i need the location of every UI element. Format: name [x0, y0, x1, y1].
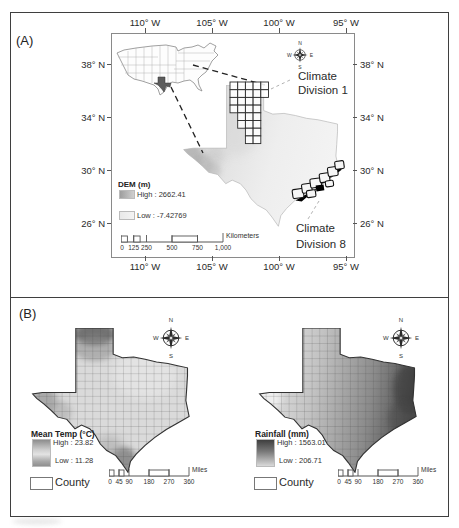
lon-label-top-100w: 100° W — [263, 17, 294, 28]
mi-tick-90: 90 — [125, 478, 132, 485]
county-legend-label-temp: County — [55, 476, 90, 488]
compass-e-label: E — [310, 52, 313, 58]
km-tick-750: 750 — [192, 244, 203, 251]
mi-tick-45: 45 — [344, 478, 351, 485]
mi-tick-180: 180 — [144, 478, 155, 485]
mi-tick-0: 0 — [108, 478, 112, 485]
lat-label-left-34n: 34° N — [65, 112, 105, 123]
scale-bar-kilometers: 0 125 250 500 750 1,000 Kilometers — [121, 230, 251, 254]
lat-tick-right — [353, 64, 357, 65]
lat-tick-right — [353, 117, 357, 118]
lat-label-right-26n: 26° N — [360, 218, 384, 229]
km-tick-125: 125 — [128, 244, 139, 251]
compass-n-label: N — [298, 40, 302, 46]
scale-bar-miles-rain: 0 45 90 180 270 360 Miles — [338, 464, 446, 486]
mi-tick-90: 90 — [354, 478, 361, 485]
temp-low-label: Low : 11.28 — [55, 456, 93, 465]
cd1-annotation-line1: Climate — [298, 69, 348, 83]
lon-label-top-105w: 105° W — [196, 17, 227, 28]
dem-high-label: High : 2662.41 — [137, 190, 186, 199]
zoom-cone-line-lower — [171, 87, 203, 153]
lon-label-bottom-110w: 110° W — [130, 261, 161, 272]
lon-label-bottom-100w: 100° W — [263, 261, 294, 272]
lat-label-left-30n: 30° N — [65, 165, 105, 176]
mi-tick-360: 360 — [184, 478, 195, 485]
figure-canvas: (A) 110° W 105° W 100° W 95° W 110° W 10… — [0, 0, 459, 528]
km-tick-1000: 1,000 — [215, 244, 231, 251]
compass-n-label: N — [169, 317, 173, 323]
km-tick-0: 0 — [120, 244, 124, 251]
dem-legend-title: DEM (m) — [118, 180, 150, 189]
mi-tick-270: 270 — [164, 478, 175, 485]
lon-tick-bottom — [212, 256, 213, 261]
lon-label-bottom-95w: 95° W — [333, 261, 359, 272]
lat-label-right-30n: 30° N — [360, 165, 384, 176]
lon-label-top-110w: 110° W — [130, 17, 161, 28]
mi-tick-360: 360 — [413, 478, 424, 485]
county-legend-swatch-temp — [30, 477, 53, 490]
rain-high-label: High : 1563.01 — [277, 438, 326, 447]
climate-division-8-counties — [289, 159, 349, 203]
panel-b: (B) — [10, 297, 449, 517]
compass-star-icon — [389, 326, 414, 351]
cd1-leader-line — [271, 80, 290, 89]
mi-unit-label: Miles — [192, 466, 207, 473]
compass-e-label: E — [185, 335, 189, 341]
km-tick-500: 500 — [167, 244, 178, 251]
panel-a: (A) 110° W 105° W 100° W 95° W 110° W 10… — [10, 12, 449, 298]
cd1-annotation-line2: Division 1 — [298, 83, 348, 97]
county-legend-label-rain: County — [279, 476, 314, 488]
county-legend-swatch-rain — [254, 477, 277, 490]
scale-bar-miles-graphic — [109, 464, 199, 477]
mi-tick-180: 180 — [373, 478, 384, 485]
cd8-dark-county — [316, 184, 325, 191]
panel-a-label: (A) — [16, 33, 33, 48]
compass-e-label: E — [415, 335, 419, 341]
lon-label-top-95w: 95° W — [333, 17, 359, 28]
cd8-leader-line — [308, 201, 319, 219]
panel-b-label: (B) — [19, 306, 36, 321]
dem-high-swatch — [119, 190, 135, 199]
compass-n-label: N — [399, 317, 403, 323]
km-unit-label: Kilometers — [226, 232, 259, 239]
compass-star-icon — [292, 47, 309, 64]
lat-label-left-38n: 38° N — [65, 59, 105, 70]
lat-label-right-38n: 38° N — [360, 59, 384, 70]
scale-bar-km-graphic — [121, 230, 233, 243]
lat-tick-right — [353, 170, 357, 171]
mi-tick-0: 0 — [337, 478, 341, 485]
mi-unit-label: Miles — [421, 466, 436, 473]
dem-low-swatch — [119, 211, 135, 220]
compass-rose-temp-map: N S W E — [153, 317, 189, 359]
compass-rose-rainfall-map: N S W E — [383, 317, 419, 359]
cd8-annotation-line2: Division 8 — [296, 236, 346, 252]
km-tick-250: 250 — [141, 244, 152, 251]
lat-tick-right — [353, 223, 357, 224]
lon-tick-bottom — [279, 256, 280, 261]
lat-label-right-34n: 34° N — [360, 112, 384, 123]
lon-tick-bottom — [346, 256, 347, 261]
climate-division-8-annotation: Climate Division 8 — [296, 220, 346, 252]
rain-gradient-swatch — [256, 439, 275, 467]
lat-label-left-26n: 26° N — [65, 218, 105, 229]
compass-s-label: S — [169, 353, 173, 359]
scale-bar-miles-temp: 0 45 90 180 270 360 Miles — [109, 464, 217, 486]
rain-low-label: Low : 206.71 — [279, 456, 322, 465]
scale-bar-miles-graphic — [338, 464, 428, 477]
compass-s-label: S — [399, 353, 403, 359]
temp-high-label: High : 23.82 — [53, 438, 93, 447]
climate-division-1-grid — [229, 81, 271, 147]
scan-smudge-bottom — [12, 518, 62, 525]
cd8-annotation-line1: Climate — [296, 220, 346, 236]
climate-division-1-annotation: Climate Division 1 — [298, 69, 348, 97]
lon-label-bottom-105w: 105° W — [196, 261, 227, 272]
dem-low-label: Low : -7.42769 — [137, 211, 187, 220]
mi-tick-45: 45 — [115, 478, 122, 485]
compass-star-icon — [159, 326, 184, 351]
mi-tick-270: 270 — [393, 478, 404, 485]
lon-tick-bottom — [145, 256, 146, 261]
temp-gradient-swatch — [32, 439, 51, 467]
compass-rose-panel-a: N S W E — [287, 40, 313, 70]
